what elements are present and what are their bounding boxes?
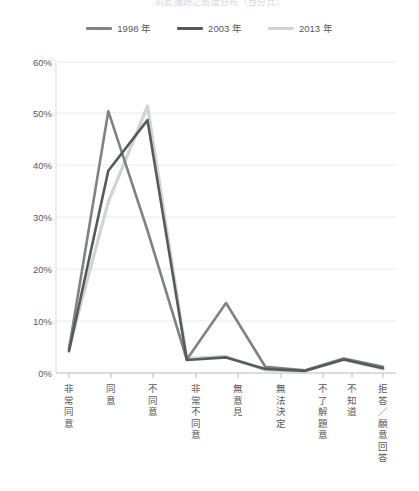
x-label-3: 非常不同意 xyxy=(189,383,203,441)
x-axis-labels: 非常同意 同意 不同意 非常不同意 無意見 無法決定 不了解題意 不知道 拒答／… xyxy=(0,383,419,491)
series-line-2003 xyxy=(69,120,383,371)
x-label-2: 不同意 xyxy=(146,383,160,418)
x-label-8: 拒答／願意回答 xyxy=(376,383,390,464)
x-label-6: 不了解題意 xyxy=(316,383,330,441)
gridlines xyxy=(56,62,396,321)
series-line-2013 xyxy=(69,106,383,371)
x-axis-ticks xyxy=(69,373,383,378)
series-lines xyxy=(69,106,383,371)
chart-container: 對此議題之態度分布（百分比） 1998 年 2003 年 2013 年 60% … xyxy=(0,0,419,491)
x-label-5: 無法決定 xyxy=(274,383,288,429)
x-label-1: 同意 xyxy=(104,383,118,406)
x-label-4: 無意見 xyxy=(231,383,245,418)
x-label-7: 不知道 xyxy=(345,383,359,418)
x-label-0: 非常同意 xyxy=(62,383,76,429)
series-line-1998 xyxy=(69,111,383,370)
